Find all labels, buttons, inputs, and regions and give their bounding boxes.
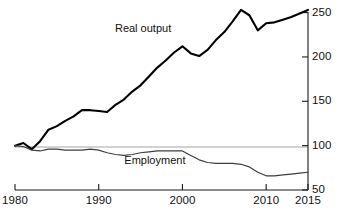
x-tick-label-2015: 2015 — [288, 194, 328, 206]
y-tick-label-150: 150 — [312, 94, 332, 106]
chart-canvas — [0, 0, 348, 220]
series-label-employment: Employment — [124, 154, 185, 166]
y-axis-ticks — [302, 13, 308, 190]
line-chart: 25020015010050 19801990200020102015 Real… — [0, 0, 348, 220]
y-tick-label-100: 100 — [312, 139, 332, 151]
x-tick-label-1980: 1980 — [0, 194, 35, 206]
x-tick-label-2010: 2010 — [246, 194, 286, 206]
x-tick-label-1990: 1990 — [79, 194, 119, 206]
y-tick-label-250: 250 — [312, 6, 332, 18]
x-tick-label-2000: 2000 — [162, 194, 202, 206]
y-tick-label-200: 200 — [312, 50, 332, 62]
x-axis-ticks — [15, 184, 308, 190]
series-label-real-output: Real output — [115, 22, 171, 34]
